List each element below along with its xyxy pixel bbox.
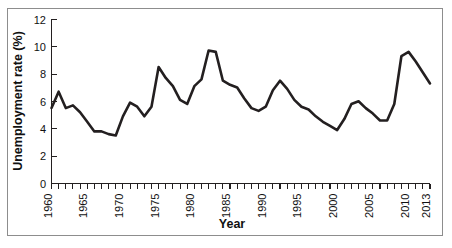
y-axis-title: Unemployment rate (%)	[11, 31, 25, 171]
y-axis-tick-labels: 12 10 8 6 4 2 0	[34, 14, 46, 190]
y-tick-label-10: 10	[34, 41, 46, 53]
x-tick-label-1995: 1995	[291, 194, 303, 218]
x-axis-tick-labels: 1960196519701975198019851990199520002005…	[42, 194, 433, 218]
x-tick-label-2010: 2010	[399, 194, 411, 218]
x-tick-label-2005: 2005	[363, 194, 375, 218]
y-tick-label-12: 12	[34, 14, 46, 26]
x-tick-label-1985: 1985	[220, 194, 232, 218]
x-axis-title: Year	[219, 217, 246, 231]
x-tick-label-1990: 1990	[256, 194, 268, 218]
x-tick-label-1970: 1970	[113, 194, 125, 218]
y-tick-label-6: 6	[40, 96, 46, 108]
unemployment-rate-series-line	[52, 51, 431, 136]
y-tick-label-4: 4	[40, 123, 46, 135]
unemployment-rate-line-chart: 12 10 8 6 4 2 0 Unemployment rate (%) 19…	[0, 0, 452, 248]
y-tick-label-8: 8	[40, 68, 46, 80]
y-tick-label-2: 2	[40, 150, 46, 162]
x-tick-label-2000: 2000	[327, 194, 339, 218]
y-axis: 12 10 8 6 4 2 0 Unemployment rate (%)	[11, 14, 57, 190]
x-tick-label-1980: 1980	[184, 194, 196, 218]
x-axis: 1960196519701975198019851990199520002005…	[42, 184, 433, 232]
y-tick-label-0: 0	[40, 178, 46, 190]
x-tick-label-1975: 1975	[149, 194, 161, 218]
chart-surface: 12 10 8 6 4 2 0 Unemployment rate (%) 19…	[0, 0, 452, 248]
x-axis-ticks	[52, 184, 431, 190]
x-tick-label-1965: 1965	[77, 194, 89, 218]
x-tick-label-1960: 1960	[42, 194, 54, 218]
x-tick-label-2013: 2013	[420, 194, 432, 218]
